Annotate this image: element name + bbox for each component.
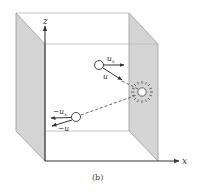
ux-label: ux xyxy=(107,54,115,64)
neg-ux-arrow xyxy=(51,118,72,119)
neg-u-label: −u xyxy=(58,124,69,133)
x-axis-label: x xyxy=(182,156,187,166)
left-wall xyxy=(16,13,45,161)
neg-ux-label: −ux xyxy=(53,107,67,117)
figure-caption: (b) xyxy=(92,173,103,182)
u-label: u xyxy=(103,72,108,81)
z-axis-label: z xyxy=(42,16,48,26)
gas-box-collision-diagram: z x ux u xyxy=(0,0,198,192)
reflected-particle: −ux −u xyxy=(51,107,81,133)
incoming-particle: ux u xyxy=(95,54,125,81)
